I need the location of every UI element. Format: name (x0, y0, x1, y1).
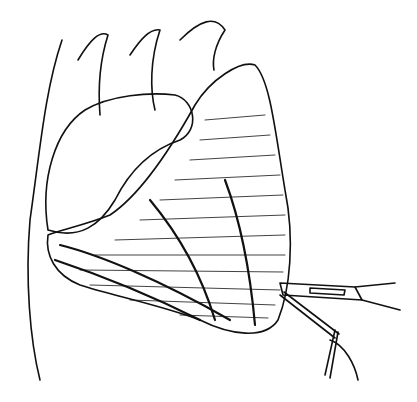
ventricles (47, 64, 290, 333)
scalpel (280, 283, 400, 310)
atrium (46, 94, 193, 233)
probe (280, 292, 358, 380)
medical-illustration (0, 0, 417, 402)
